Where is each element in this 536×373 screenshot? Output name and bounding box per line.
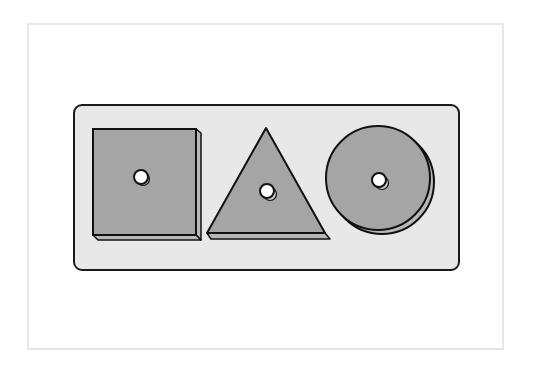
figure-canvas xyxy=(0,0,536,373)
square-peg-hole xyxy=(134,170,148,184)
circle-peg-hole xyxy=(372,173,386,187)
shape-sorter-diagram xyxy=(0,0,536,373)
triangle-peg-hole xyxy=(260,184,274,198)
square-piece xyxy=(93,129,201,240)
